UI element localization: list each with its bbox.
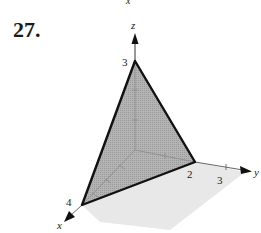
x-tick-label: 4 — [66, 196, 72, 208]
y-tick-label-3: 3 — [217, 174, 223, 186]
x-axis-label: x — [56, 219, 62, 231]
z-axis-label: z — [130, 19, 136, 31]
y-axis-label: y — [253, 166, 259, 178]
plane-figure: x z 3 2 3 y 4 x — [0, 0, 261, 233]
y-arrow-icon — [240, 166, 252, 174]
y-tick-label-2: 2 — [187, 168, 193, 180]
z-arrow-icon — [132, 33, 139, 44]
top-cut-label: x — [125, 0, 131, 6]
z-tick-label: 3 — [122, 56, 128, 68]
